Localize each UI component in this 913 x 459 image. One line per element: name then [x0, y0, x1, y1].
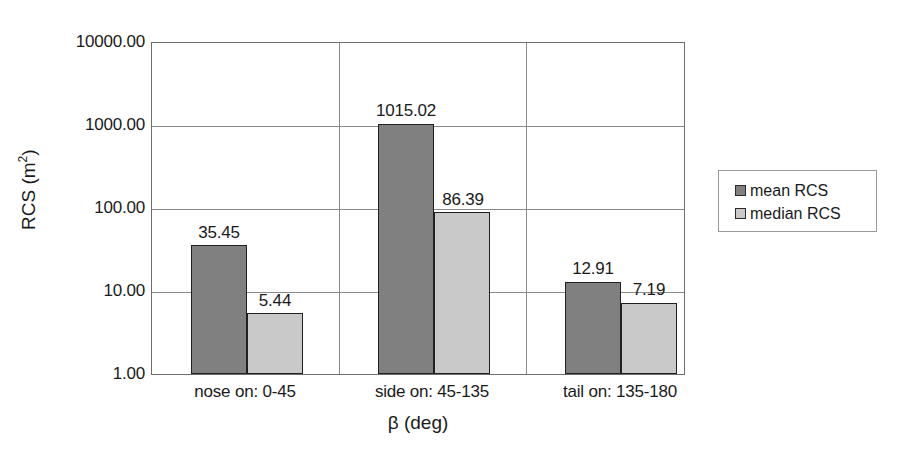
- y-axis-title-text: RCS (m: [18, 162, 39, 230]
- bar-mean-side-on: [378, 124, 434, 374]
- bar-value-label: 1015.02: [352, 101, 460, 121]
- legend-label-median: median RCS: [750, 205, 841, 223]
- y-tick-label: 10000.00: [76, 32, 145, 52]
- x-tick-label-nose-on: nose on: 0-45: [194, 382, 295, 402]
- legend-swatch-icon-mean: [735, 185, 746, 196]
- legend-entry-mean-rcs: mean RCS: [735, 179, 876, 202]
- y-tick-label: 1000.00: [85, 115, 145, 135]
- y-axis-title-close: ): [18, 149, 39, 155]
- bar-value-label: 35.45: [174, 223, 264, 243]
- rcs-bar-chart-figure: 10000.00 1000.00 100.00 10.00 1.00 RCS (…: [0, 0, 913, 459]
- bar-median-side-on: [434, 212, 490, 374]
- bar-value-label: 86.39: [418, 190, 508, 210]
- y-axis-title: RCS (m2): [16, 100, 39, 280]
- bar-value-label: 7.19: [608, 280, 690, 300]
- bar-median-nose-on: [247, 313, 303, 374]
- y-axis-title-superscript: 2: [16, 156, 30, 163]
- legend-label-mean: mean RCS: [750, 182, 828, 200]
- legend-swatch-icon-median: [735, 208, 746, 219]
- category-separator-2: [526, 43, 527, 374]
- y-tick-label: 10.00: [103, 281, 145, 301]
- y-tick-label: 100.00: [94, 198, 145, 218]
- bar-value-label: 12.91: [548, 259, 638, 279]
- y-tick-label: 1.00: [113, 364, 145, 384]
- bar-median-tail-on: [621, 303, 677, 374]
- chart-legend: mean RCS median RCS: [718, 170, 877, 232]
- x-tick-label-side-on: side on: 45-135: [375, 382, 489, 402]
- bar-value-label: 5.44: [234, 291, 316, 311]
- legend-entry-median-rcs: median RCS: [735, 202, 876, 225]
- plot-area: 35.45 5.44 1015.02 86.39 12.91 7.19: [151, 42, 685, 375]
- x-axis-title: β (deg): [151, 412, 685, 434]
- x-tick-label-tail-on: tail on: 135-180: [563, 382, 677, 402]
- category-separator-1: [339, 43, 340, 374]
